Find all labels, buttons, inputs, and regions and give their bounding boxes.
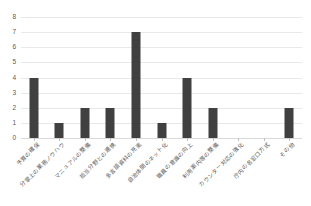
bar [208, 108, 217, 138]
x-axis-category-labels: 予算の確保分掌上の業務ノウハウマニュアルの整備担当分野との連携多言語資料の充実自… [21, 142, 302, 206]
y-tick-label: 3 [12, 89, 16, 96]
plot-area [21, 17, 302, 138]
bar [29, 78, 38, 139]
x-tick [238, 138, 239, 141]
x-tick [289, 138, 290, 141]
y-axis: 876543210 [0, 17, 19, 138]
x-axis-ticks [21, 138, 302, 141]
x-tick [85, 138, 86, 141]
x-tick [187, 138, 188, 141]
bar [183, 78, 192, 139]
x-axis-label: その他 [279, 142, 296, 159]
bar [80, 108, 89, 138]
y-tick-label: 5 [12, 59, 16, 66]
bar [131, 32, 140, 138]
bar [157, 123, 166, 138]
bar [285, 108, 294, 138]
bars-series [21, 17, 302, 138]
y-tick-label: 0 [12, 135, 16, 142]
x-tick [162, 138, 163, 141]
x-tick [59, 138, 60, 141]
x-tick [136, 138, 137, 141]
y-tick-label: 6 [12, 44, 16, 51]
y-tick-label: 2 [12, 105, 16, 112]
bar [55, 123, 64, 138]
x-tick [264, 138, 265, 141]
y-tick-label: 1 [12, 120, 16, 127]
x-tick [213, 138, 214, 141]
y-tick-label: 8 [12, 14, 16, 21]
bar-chart-figure: 876543210 予算の確保分掌上の業務ノウハウマニュアルの整備担当分野との連… [0, 0, 311, 206]
x-tick [34, 138, 35, 141]
bar [106, 108, 115, 138]
y-tick-label: 7 [12, 29, 16, 36]
y-tick-label: 4 [12, 74, 16, 81]
x-tick [110, 138, 111, 141]
